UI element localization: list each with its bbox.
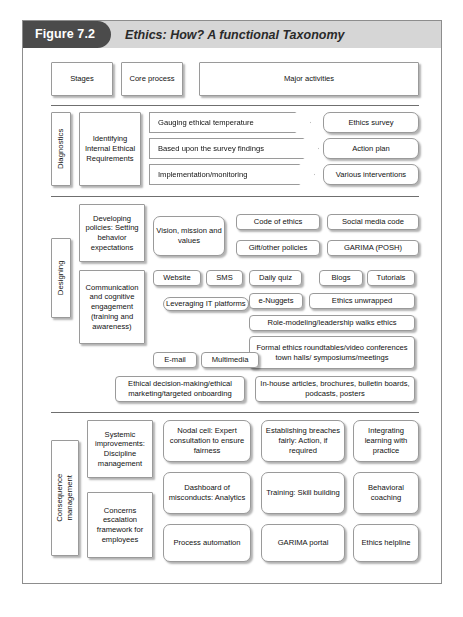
figure-number-badge: Figure 7.2: [23, 21, 111, 48]
activity-garima-posh: GARIMA (POSH): [327, 240, 419, 256]
activity-social-media-code: Social media code: [327, 214, 419, 230]
activity-in-house-articles: In-house articles, brochures, bulletin b…: [255, 376, 415, 402]
activity-ethics-unwrapped: Ethics unwrapped: [309, 293, 415, 309]
section-divider-diagnostics-designing: [51, 196, 419, 197]
figure-frame: Figure 7.2 Ethics: How? A functional Tax…: [22, 20, 442, 584]
core-process-systemic-improvements: Systemic improvements: Discipline manage…: [87, 420, 153, 478]
activity-arrow-implementation-monitoring: Implementation/monitoring: [149, 164, 315, 185]
figure-body: Stages Core process Major activities Dia…: [23, 48, 441, 584]
activity-gift-other-policies: Gift/other policies: [236, 240, 320, 256]
activity-email: E-mail: [153, 352, 197, 368]
activity-blogs: Blogs: [319, 270, 363, 286]
figure-header: Figure 7.2 Ethics: How? A functional Tax…: [23, 21, 441, 48]
core-process-concerns-escalation: Concerns escalation framework for employ…: [87, 492, 153, 558]
outcome-action-plan: Action plan: [323, 138, 419, 159]
activity-behavioral-coaching: Behavioral coaching: [353, 472, 419, 514]
activity-process-automation: Process automation: [163, 524, 251, 562]
stage-label-consequence-management-text: Consequence management: [55, 474, 74, 522]
section-divider-top: [51, 105, 419, 106]
core-process-diagnostics: Identifying Internal Ethical Requirement…: [79, 112, 141, 186]
core-process-communication-engagement: Communication and cognitive engagement (…: [79, 270, 145, 344]
enabler-leveraging-it-platforms: Leveraging IT platforms: [163, 297, 249, 311]
activity-tutorials: Tutorials: [367, 270, 415, 286]
stage-label-designing: Designing: [51, 238, 71, 318]
column-header-stages: Stages: [51, 62, 113, 96]
activity-code-of-ethics: Code of ethics: [236, 214, 320, 230]
outcome-ethics-survey: Ethics survey: [323, 112, 419, 133]
activity-role-modeling-leadership: Role-modeling/leadership walks ethics: [249, 315, 415, 331]
column-header-core-process: Core process: [121, 62, 183, 96]
activity-establishing-breaches: Establishing breaches fairly: Action, if…: [261, 420, 345, 462]
activity-ethical-decision-making: Ethical decision-making/ethical marketin…: [115, 376, 245, 402]
activity-daily-quiz: Daily quiz: [249, 270, 302, 286]
stage-label-designing-text: Designing: [56, 261, 66, 296]
activity-training-skill-building: Training: Skill building: [261, 472, 345, 514]
activity-integrating-learning: Integrating learning with practice: [353, 420, 419, 462]
stage-label-consequence-management: Consequence management: [51, 440, 79, 556]
core-process-developing-policies: Developing policies: Setting behavior ex…: [79, 204, 145, 262]
activity-nodal-cell: Nodal cell: Expert consultation to ensur…: [163, 420, 251, 462]
outcome-various-interventions: Various interventions: [323, 164, 419, 185]
activity-e-nuggets: e-Nuggets: [249, 293, 303, 309]
section-divider-designing-consequence: [51, 412, 419, 413]
stage-label-diagnostics: Diagnostics: [51, 112, 71, 186]
activity-sms: SMS: [206, 270, 243, 286]
activity-ethics-helpline: Ethics helpline: [353, 524, 419, 562]
activity-garima-portal: GARIMA portal: [261, 524, 345, 562]
enabler-vision-mission-values: Vision, mission and values: [153, 216, 225, 256]
activity-arrow-survey-findings: Based upon the survey findings: [149, 138, 319, 159]
stage-label-diagnostics-text: Diagnostics: [56, 129, 66, 169]
column-header-major-activities: Major activities: [199, 62, 419, 96]
activity-multimedia: Multimedia: [201, 352, 259, 368]
activity-arrow-gauging-temperature: Gauging ethical temperature: [149, 112, 311, 133]
activity-dashboard-misconducts: Dashboard of misconducts: Analytics: [163, 472, 251, 514]
figure-title: Ethics: How? A functional Taxonomy: [125, 28, 344, 42]
activity-website: Website: [153, 270, 201, 286]
activity-formal-ethics-roundtables: Formal ethics roundtables/video conferen…: [249, 336, 415, 369]
